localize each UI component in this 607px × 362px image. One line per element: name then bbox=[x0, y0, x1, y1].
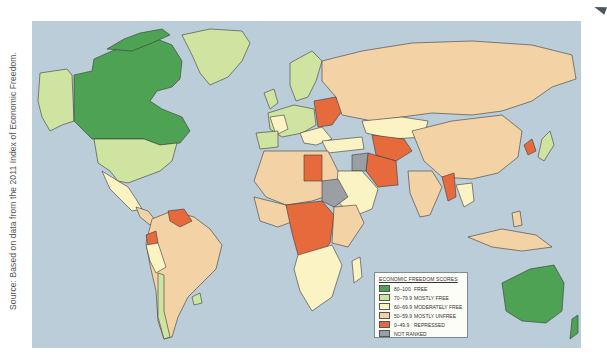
legend-item-not-ranked: NOT RANKED bbox=[379, 329, 463, 338]
legend-item-moderately-free: 60–69.9 MODERATELY FREE bbox=[379, 302, 463, 311]
region-southern-africa bbox=[294, 245, 342, 311]
region-scandinavia bbox=[290, 51, 322, 101]
map-legend: ECONOMIC FREEDOM SCORES 80–100 FREE 70–7… bbox=[374, 272, 468, 338]
region-australia bbox=[502, 265, 564, 323]
legend-label: FREE bbox=[414, 286, 427, 292]
region-canada bbox=[74, 39, 190, 145]
legend-range: 50–59.9 bbox=[394, 313, 414, 319]
legend-item-free: 80–100 FREE bbox=[379, 284, 463, 293]
region-new-zealand bbox=[570, 315, 578, 339]
legend-swatch bbox=[379, 321, 390, 328]
region-indonesia bbox=[468, 229, 552, 251]
region-uk bbox=[264, 89, 278, 109]
legend-label: MODERATELY FREE bbox=[414, 304, 462, 310]
region-libya bbox=[304, 155, 322, 181]
legend-title: ECONOMIC FREEDOM SCORES bbox=[379, 276, 463, 282]
region-greenland bbox=[182, 29, 250, 85]
legend-label: REPRESSED bbox=[414, 322, 445, 328]
region-se-asia bbox=[456, 183, 474, 207]
legend-swatch bbox=[379, 330, 390, 337]
world-map-graphic bbox=[32, 21, 581, 348]
region-north-korea bbox=[524, 139, 536, 155]
legend-label: MOSTLY UNFREE bbox=[414, 313, 456, 319]
region-iraq-afghanistan bbox=[352, 153, 368, 171]
legend-range: 80–100 bbox=[394, 286, 414, 292]
region-alaska bbox=[38, 69, 74, 131]
legend-swatch bbox=[379, 294, 390, 301]
legend-range: 70–79.9 bbox=[394, 295, 414, 301]
legend-label: MOSTLY FREE bbox=[414, 295, 449, 301]
source-caption: Source: Based on data from the 2011 Inde… bbox=[3, 0, 23, 362]
region-madagascar bbox=[352, 257, 362, 283]
region-ecuador bbox=[146, 231, 158, 245]
region-south-america bbox=[146, 211, 222, 339]
legend-range: 0–49.9 bbox=[394, 322, 414, 328]
region-india bbox=[408, 171, 442, 217]
legend-label: NOT RANKED bbox=[394, 331, 427, 337]
legend-swatch bbox=[379, 312, 390, 319]
legend-swatch bbox=[379, 303, 390, 310]
region-china bbox=[412, 115, 522, 179]
region-iberia bbox=[256, 131, 278, 149]
legend-swatch bbox=[379, 285, 390, 292]
region-philippines bbox=[512, 211, 522, 227]
region-japan bbox=[538, 131, 554, 161]
legend-item-mostly-unfree: 50–59.9 MOSTLY UNFREE bbox=[379, 311, 463, 320]
source-text: Source: Based on data from the 2011 Inde… bbox=[8, 52, 18, 310]
region-uruguay bbox=[192, 293, 202, 305]
legend-item-repressed: 0–49.9 REPRESSED bbox=[379, 320, 463, 329]
region-burma bbox=[442, 173, 456, 201]
world-map bbox=[32, 21, 581, 348]
region-russia bbox=[322, 41, 576, 121]
corner-marker bbox=[593, 3, 607, 15]
legend-item-mostly-free: 70–79.9 MOSTLY FREE bbox=[379, 293, 463, 302]
legend-range: 60–69.9 bbox=[394, 304, 414, 310]
